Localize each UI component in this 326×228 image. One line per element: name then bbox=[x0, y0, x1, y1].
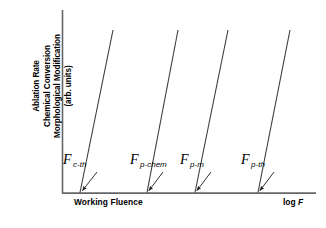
threshold-subscript-p-th: p-th bbox=[251, 160, 265, 169]
log-symbol-f: F bbox=[298, 197, 303, 207]
leader-arrow-p-chem bbox=[149, 172, 163, 191]
threshold-symbol-p-th: F bbox=[241, 152, 250, 167]
leader-arrow-p-th bbox=[260, 172, 274, 191]
threshold-subscript-p-chem: p-chem bbox=[140, 160, 167, 169]
threshold-label-c-th: Fc-th bbox=[63, 150, 85, 168]
threshold-label-p-th: Fp-th bbox=[241, 150, 263, 168]
threshold-symbol-c-th: F bbox=[63, 152, 72, 167]
x-axis-label-working-fluence: Working Fluence bbox=[74, 197, 143, 207]
threshold-label-p-chem: Fp-chem bbox=[130, 150, 165, 168]
schematic-plot bbox=[0, 0, 326, 228]
threshold-subscript-c-th: c-th bbox=[73, 160, 86, 169]
figure-container: Ablation Rate Chemical Conversion Morpho… bbox=[0, 0, 326, 228]
log-prefix: log bbox=[283, 197, 298, 207]
threshold-symbol-p-m: F bbox=[180, 152, 189, 167]
threshold-subscript-p-m: p-m bbox=[190, 160, 204, 169]
leader-arrow-c-th bbox=[83, 172, 98, 191]
threshold-symbol-p-chem: F bbox=[130, 152, 139, 167]
threshold-label-p-m: Fp-m bbox=[180, 150, 202, 168]
x-axis-label-log-f: log F bbox=[283, 197, 303, 207]
